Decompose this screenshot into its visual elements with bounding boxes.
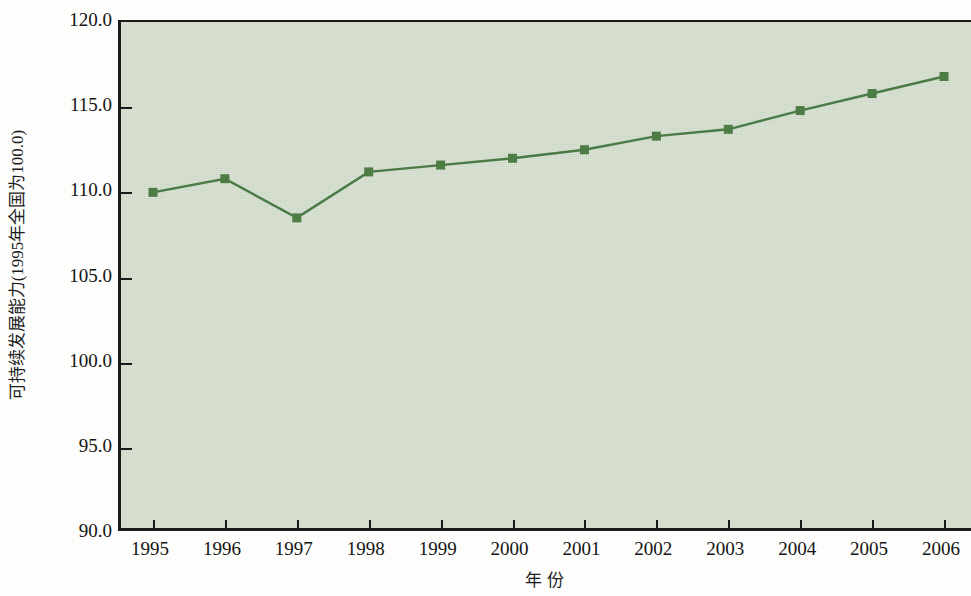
x-axis-tick [944,520,946,531]
x-axis-tick [728,520,730,531]
x-axis-tick [513,520,515,531]
y-tick-label: 120.0 [36,10,112,29]
x-axis-tick [656,520,658,531]
x-axis-tick [800,520,802,531]
data-point-marker [508,154,517,163]
y-axis-tick-labels: 120.0115.0110.0105.0100.095.090.0 [30,0,112,596]
x-axis-tick [441,520,443,531]
data-point-marker [940,72,949,81]
x-axis-tick [225,520,227,531]
data-point-marker [868,89,877,98]
data-point-marker [436,161,445,170]
data-point-marker [364,167,373,176]
data-point-marker [796,106,805,115]
data-point-marker [580,145,589,154]
y-axis-tick [121,107,132,109]
x-axis-title: 年 份 [118,566,971,591]
y-tick-label: 95.0 [36,436,112,455]
y-axis-tick [121,278,132,280]
line-chart: 可持续发展能力(1995年全国为100.0) 120.0115.0110.010… [0,0,971,596]
y-axis-title: 可持续发展能力(1995年全国为100.0) [0,0,30,530]
data-point-marker [292,213,301,222]
y-tick-label: 110.0 [36,180,112,199]
y-axis-tick [121,192,132,194]
data-series-line [121,22,971,533]
x-axis-tick [297,520,299,531]
data-point-marker [724,125,733,134]
data-point-marker [149,188,158,197]
y-tick-label: 115.0 [36,95,112,114]
y-tick-label: 105.0 [36,266,112,285]
y-tick-label: 90.0 [36,521,112,540]
x-tick-label: 2006 [896,538,971,560]
x-axis-tick [872,520,874,531]
y-axis-tick [121,448,132,450]
x-axis-tick [153,520,155,531]
data-point-marker [652,132,661,141]
data-point-marker [220,174,229,183]
series-line [153,77,944,218]
y-axis-tick [121,363,132,365]
x-axis-tick [584,520,586,531]
x-axis-tick [369,520,371,531]
plot-area [118,20,971,531]
y-tick-label: 100.0 [36,351,112,370]
